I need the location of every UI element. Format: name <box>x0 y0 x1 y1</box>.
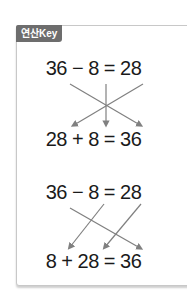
arrows-diagram <box>0 0 187 290</box>
